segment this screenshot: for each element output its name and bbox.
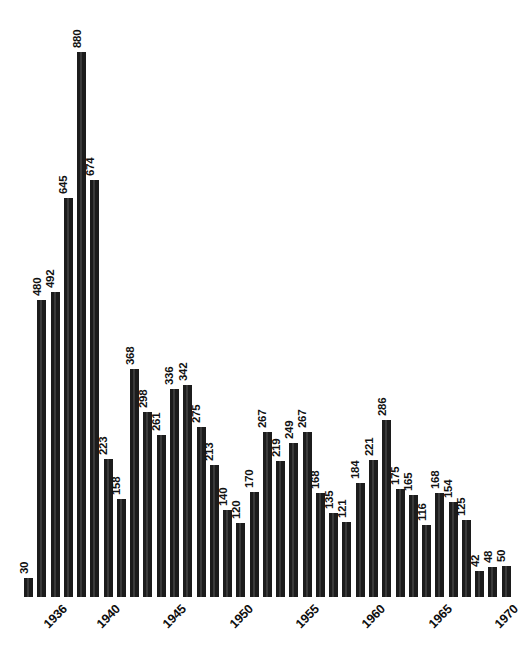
bar-value-label: 275 (191, 404, 201, 422)
bar-value-label: 480 (32, 277, 42, 295)
bar-value-label: 261 (151, 413, 161, 431)
bar (475, 571, 484, 597)
bar (210, 465, 219, 597)
bar (382, 420, 391, 597)
bar (329, 513, 338, 597)
plot-area: 3048049264588067422315836829826133634227… (0, 0, 529, 597)
bar (223, 510, 232, 597)
bar-value-label: 140 (218, 488, 228, 506)
bar-value-label: 674 (85, 157, 95, 175)
bar (303, 432, 312, 597)
bar (422, 525, 431, 597)
bar-value-label: 219 (271, 439, 281, 457)
bar (37, 300, 46, 597)
bar (90, 180, 99, 597)
bar-value-label: 154 (443, 479, 453, 497)
bar-value-label: 368 (125, 347, 135, 365)
bar (276, 461, 285, 597)
bar-value-label: 168 (310, 471, 320, 489)
bar-value-label: 645 (58, 175, 68, 193)
bar (356, 483, 365, 597)
bar-value-label: 267 (257, 409, 267, 427)
bar-value-label: 165 (403, 473, 413, 491)
bar-value-label: 48 (483, 551, 493, 563)
bar-value-label: 170 (244, 469, 254, 487)
x-axis-tick-labels: 19361940194519501955196019651970 (0, 600, 529, 668)
bar-value-label: 135 (324, 491, 334, 509)
bar-value-label: 168 (430, 471, 440, 489)
bar (157, 435, 166, 597)
bar-value-label: 298 (138, 390, 148, 408)
bar (342, 522, 351, 597)
bar (369, 460, 378, 597)
bar (170, 389, 179, 597)
x-axis-tick-label: 1950 (227, 602, 256, 631)
bar-value-label: 42 (470, 555, 480, 567)
bar (117, 499, 126, 597)
bar-value-label: 342 (178, 363, 188, 381)
bar (77, 52, 86, 597)
x-axis-tick-label: 1936 (41, 602, 70, 631)
x-axis-tick-label: 1965 (426, 602, 455, 631)
bar-value-label: 175 (390, 466, 400, 484)
bar-value-label: 213 (204, 443, 214, 461)
bar-value-label: 120 (231, 500, 241, 518)
bar-value-label: 116 (417, 504, 427, 522)
bar (289, 443, 298, 597)
bar (488, 567, 497, 597)
bar-value-label: 30 (19, 562, 29, 574)
bar-value-label: 880 (72, 30, 82, 48)
bar-value-label: 121 (337, 500, 347, 518)
bar-value-label: 249 (284, 421, 294, 439)
bar (396, 489, 405, 597)
x-axis-tick-label: 1955 (293, 602, 322, 631)
bar-value-label: 158 (111, 477, 121, 495)
bar-value-label: 184 (350, 461, 360, 479)
bar (143, 412, 152, 597)
bar (51, 292, 60, 597)
bar (250, 492, 259, 597)
x-axis-tick-label: 1960 (359, 602, 388, 631)
bar (236, 523, 245, 597)
x-axis-tick-label: 1940 (94, 602, 123, 631)
bar-value-label: 221 (364, 438, 374, 456)
bar-value-label: 492 (45, 270, 55, 288)
bar (435, 493, 444, 597)
bar-value-label: 336 (164, 367, 174, 385)
bar (502, 566, 511, 597)
x-axis-tick-label: 1970 (492, 602, 521, 631)
bar (24, 578, 33, 597)
bar (64, 198, 73, 597)
bar-value-label: 286 (377, 398, 387, 416)
bar-value-label: 50 (496, 550, 506, 562)
bar-value-label: 223 (98, 437, 108, 455)
bar-value-label: 267 (297, 409, 307, 427)
bar-value-label: 125 (456, 497, 466, 515)
bar-chart: 3048049264588067422315836829826133634227… (0, 0, 529, 668)
x-axis-tick-label: 1945 (160, 602, 189, 631)
